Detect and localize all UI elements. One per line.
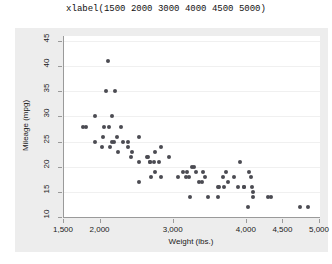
data-point xyxy=(119,125,123,129)
data-point xyxy=(216,185,220,189)
data-point xyxy=(148,160,152,164)
data-point xyxy=(130,150,134,154)
x-axis-tick-label: 4,500 xyxy=(272,225,292,234)
data-point xyxy=(201,170,205,174)
x-axis-tick-label: 5,000 xyxy=(309,225,329,234)
data-point xyxy=(192,165,196,169)
gridline xyxy=(64,192,320,193)
x-axis-tick xyxy=(63,219,64,223)
data-point xyxy=(137,180,141,184)
y-axis-tick-label: 10 xyxy=(42,210,51,224)
gridline xyxy=(64,116,320,117)
data-point xyxy=(129,155,133,159)
data-point xyxy=(159,175,163,179)
data-point xyxy=(216,195,220,199)
chart-screenshot: xlabel(1500 2000 3000 4000 4500 5000) Mi… xyxy=(0,0,332,264)
data-point xyxy=(187,175,191,179)
data-point xyxy=(93,114,97,118)
y-axis-label: Mileage (mpg) xyxy=(21,90,30,160)
y-axis-tick xyxy=(58,142,62,143)
data-point xyxy=(226,180,230,184)
data-point xyxy=(306,205,310,209)
data-point xyxy=(185,170,189,174)
data-point xyxy=(247,170,251,174)
plot-area xyxy=(63,36,320,218)
data-point xyxy=(126,140,130,144)
data-point xyxy=(236,185,240,189)
data-point xyxy=(101,135,105,139)
data-point xyxy=(115,135,119,139)
data-point xyxy=(146,155,150,159)
data-point xyxy=(221,175,225,179)
x-axis-tick xyxy=(173,219,174,223)
data-point xyxy=(251,195,255,199)
data-point xyxy=(238,160,242,164)
y-axis-tick xyxy=(58,217,62,218)
y-axis-tick xyxy=(58,192,62,193)
data-point xyxy=(266,195,270,199)
data-point xyxy=(176,175,180,179)
data-point xyxy=(251,190,255,194)
x-axis-tick-label: 1,500 xyxy=(53,225,73,234)
data-point xyxy=(153,170,157,174)
data-point xyxy=(224,170,228,174)
data-point xyxy=(108,145,112,149)
data-point xyxy=(250,185,254,189)
data-point xyxy=(126,145,130,149)
gridline xyxy=(64,41,320,42)
data-point xyxy=(152,160,156,164)
data-point xyxy=(232,175,236,179)
x-axis-tick xyxy=(282,219,283,223)
data-point xyxy=(200,180,204,184)
x-axis-tick-label: 4,000 xyxy=(236,225,256,234)
data-point xyxy=(246,205,250,209)
x-axis-tick-label: 2,000 xyxy=(90,225,110,234)
data-point xyxy=(112,140,116,144)
y-axis-tick-label: 20 xyxy=(42,159,51,173)
data-point xyxy=(188,195,192,199)
data-point xyxy=(121,140,125,144)
data-point xyxy=(104,89,108,93)
data-point xyxy=(81,125,85,129)
x-axis-tick xyxy=(246,219,247,223)
y-axis-tick xyxy=(58,116,62,117)
plot-inner xyxy=(64,36,320,217)
data-point xyxy=(298,205,302,209)
y-axis-tick-label: 30 xyxy=(42,109,51,123)
data-point xyxy=(107,125,111,129)
x-axis-label: Weight (lbs.) xyxy=(63,237,319,246)
data-point xyxy=(222,185,226,189)
data-point xyxy=(100,145,104,149)
y-axis-tick-label: 35 xyxy=(42,84,51,98)
y-axis-tick-label: 45 xyxy=(42,34,51,48)
data-point xyxy=(167,155,171,159)
data-point xyxy=(181,170,185,174)
data-point xyxy=(159,145,163,149)
data-point xyxy=(149,175,153,179)
data-point xyxy=(137,160,141,164)
data-point xyxy=(93,140,97,144)
y-axis-tick-label: 40 xyxy=(42,59,51,73)
x-axis-tick xyxy=(319,219,320,223)
gridline xyxy=(64,142,320,143)
data-point xyxy=(157,160,161,164)
gridline xyxy=(64,66,320,67)
data-point xyxy=(113,89,117,93)
y-axis-tick xyxy=(58,91,62,92)
data-point xyxy=(203,175,207,179)
gridline xyxy=(64,91,320,92)
y-axis-tick xyxy=(58,41,62,42)
data-point xyxy=(153,150,157,154)
y-axis-tick xyxy=(58,167,62,168)
data-point xyxy=(110,114,114,118)
x-axis-tick xyxy=(100,219,101,223)
graph-region: Mileage (mpg) Weight (lbs.) 101520253035… xyxy=(15,28,328,252)
data-point xyxy=(206,195,210,199)
chart-caption: xlabel(1500 2000 3000 4000 4500 5000) xyxy=(0,4,332,14)
x-axis-tick-label: 3,000 xyxy=(163,225,183,234)
data-point xyxy=(102,125,106,129)
data-point xyxy=(194,170,198,174)
data-point xyxy=(137,135,141,139)
data-point xyxy=(116,150,120,154)
data-point xyxy=(242,185,246,189)
